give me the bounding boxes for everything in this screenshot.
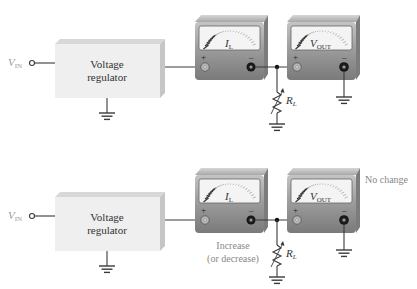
voltage-regulator-box: Voltage regulator xyxy=(55,192,165,251)
voltmeter-vout: VOUT + – xyxy=(287,168,360,233)
voltmeter-vout: VOUT + – xyxy=(287,15,360,80)
current-change-annotation: Increase xyxy=(216,240,250,251)
ground-icon xyxy=(269,124,285,130)
input-terminal-icon xyxy=(30,214,35,219)
regulator-label-line1: Voltage xyxy=(90,211,124,223)
circuit-top: VIN Voltage regulator IL + – xyxy=(8,15,360,130)
vin-label: VIN xyxy=(8,209,22,223)
ground-icon xyxy=(99,266,115,272)
voltmeter-plus-label: + xyxy=(293,205,298,215)
ground-icon xyxy=(269,277,285,283)
resistor-label: RL xyxy=(285,247,297,261)
input-terminal-icon xyxy=(30,61,35,66)
voltmeter-plus-label: + xyxy=(293,52,298,62)
voltage-change-annotation: No change xyxy=(365,174,409,185)
vin-label: VIN xyxy=(8,56,22,70)
ammeter-minus-label: – xyxy=(248,52,254,62)
regulator-label-line2: regulator xyxy=(87,224,127,236)
resistor-label: RL xyxy=(285,94,297,108)
circuit-diagram: VIN Voltage regulator IL + – xyxy=(0,0,417,289)
regulator-label-line2: regulator xyxy=(87,71,127,83)
ground-icon xyxy=(336,97,352,103)
ammeter-il: IL + – xyxy=(195,168,268,233)
regulator-label-line1: Voltage xyxy=(90,58,124,70)
voltage-regulator-box: Voltage regulator xyxy=(55,39,165,98)
ammeter-minus-label: – xyxy=(248,205,254,215)
ammeter-il: IL + – xyxy=(195,15,268,80)
voltmeter-minus-label: – xyxy=(341,205,347,215)
variable-arrow-icon xyxy=(271,90,283,114)
ammeter-plus-label: + xyxy=(201,205,206,215)
ammeter-plus-label: + xyxy=(201,52,206,62)
voltmeter-minus-label: – xyxy=(341,52,347,62)
ground-icon xyxy=(336,250,352,256)
current-change-annotation-2: (or decrease) xyxy=(207,253,259,265)
circuit-bottom: VIN Voltage regulator IL + – xyxy=(8,168,409,283)
variable-arrow-icon xyxy=(271,243,283,267)
ground-icon xyxy=(99,113,115,119)
